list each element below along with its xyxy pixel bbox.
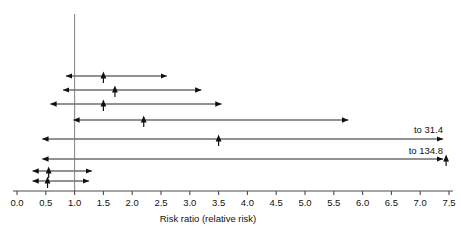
- x-tick-label: 6.5: [385, 197, 398, 208]
- forest-plot-svg: 0.00.51.01.52.02.53.03.54.04.55.05.56.06…: [0, 0, 461, 242]
- upper-limit-label: to 134.8: [409, 145, 443, 156]
- x-axis-title: Risk ratio (relative risk): [160, 213, 257, 224]
- x-tick-label: 1.0: [68, 197, 81, 208]
- x-tick-label: 5.5: [327, 197, 340, 208]
- x-tick-label: 0.0: [10, 197, 23, 208]
- x-tick-label: 5.0: [298, 197, 311, 208]
- x-tick-label: 4.5: [270, 197, 283, 208]
- upper-limit-label: to 31.4: [414, 124, 443, 135]
- x-tick-label: 2.0: [126, 197, 139, 208]
- x-tick-label: 3.5: [212, 197, 225, 208]
- x-tick-label: 0.5: [39, 197, 52, 208]
- x-tick-label: 3.0: [183, 197, 196, 208]
- x-tick-label: 4.0: [241, 197, 254, 208]
- x-tick-label: 2.5: [154, 197, 167, 208]
- x-tick-label: 7.0: [414, 197, 427, 208]
- x-tick-label: 1.5: [97, 197, 110, 208]
- x-tick-label: 7.5: [442, 197, 455, 208]
- x-tick-label: 6.0: [356, 197, 369, 208]
- forest-plot-chart: 0.00.51.01.52.02.53.03.54.04.55.05.56.06…: [0, 0, 461, 242]
